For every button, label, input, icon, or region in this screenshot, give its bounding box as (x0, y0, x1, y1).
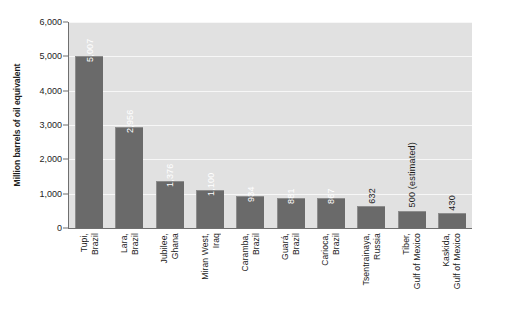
bar: 500 (estimated) (398, 211, 426, 228)
gridline (69, 91, 472, 92)
bar: 430 (438, 213, 466, 228)
x-axis-category-label: Carioca,Brazil (311, 233, 351, 319)
bar: 867 (317, 198, 345, 228)
bar-value-label: 5,007 (85, 39, 95, 63)
bar-value-label: 1,100 (206, 173, 216, 197)
x-axis-label-line: Russia (372, 233, 382, 260)
bar: 881 (277, 198, 305, 228)
bar: 5,007 (75, 56, 103, 228)
y-axis-tick-label: 3,000 (39, 120, 62, 130)
y-axis-title-text: Million barrels of oil equivalent (12, 64, 22, 187)
bar: 632 (357, 206, 385, 228)
x-axis-category-label: Miran West,Iraq (190, 233, 230, 319)
x-axis-label-line: Tsentrainaya, (361, 233, 371, 285)
y-axis-title: Million barrels of oil equivalent (10, 22, 24, 228)
x-axis-category-label: Guará,Brazil (271, 233, 311, 319)
x-axis-label-line: Lara, (119, 233, 129, 253)
x-axis-label-line: Jubilee, (159, 233, 169, 263)
y-axis-tick-label: 5,000 (39, 51, 62, 61)
bar-value-label: 934 (246, 186, 256, 202)
x-axis-label-line: Gulf of Mexico (452, 233, 462, 289)
y-axis-tick-labels: 01,0002,0003,0004,0005,0006,000 (28, 22, 68, 228)
x-axis-category-label: Tiber,Gulf of Mexico (391, 233, 431, 319)
x-axis-label-line: Iraq (211, 233, 221, 248)
bar-value-label: 1,376 (165, 163, 175, 187)
bar-value-label: 881 (286, 188, 296, 204)
y-axis-tick-label: 0 (57, 223, 62, 233)
bar-value-label: 632 (367, 188, 377, 204)
bar: 934 (236, 196, 264, 228)
gridline (69, 56, 472, 57)
y-axis-tick-label: 6,000 (39, 17, 62, 27)
plot-area: 5,0072,9561,3761,100934881867632500 (est… (69, 22, 472, 228)
y-axis-tick-label: 2,000 (39, 154, 62, 164)
x-axis-category-label: Jubilee,Ghana (150, 233, 190, 319)
x-axis-label-line: Kaskida, (441, 233, 451, 267)
y-axis-tick-label: 4,000 (39, 86, 62, 96)
x-axis-label-line: Tupi, (79, 233, 89, 252)
bar: 1,100 (196, 190, 224, 228)
x-axis-label-line: Gulf of Mexico (412, 233, 422, 289)
x-axis-category-label: Lara,Brazil (109, 233, 149, 319)
bar: 2,956 (115, 127, 143, 228)
x-axis-label-line: Brazil (90, 233, 100, 255)
x-axis-label-line: Carioca, (320, 233, 330, 266)
bar-value-label: 867 (326, 189, 336, 205)
x-axis-label-line: Ghana (170, 233, 180, 259)
x-axis-label-line: Guará, (280, 233, 290, 260)
bar: 1,376 (156, 181, 184, 228)
x-axis-line (68, 228, 472, 229)
x-axis-label-line: Brazil (291, 233, 301, 255)
x-axis-label-line: Brazil (130, 233, 140, 255)
x-axis-category-label: Tsentrainaya,Russia (351, 233, 391, 319)
x-axis-category-label: Tupi,Brazil (69, 233, 109, 319)
bar-value-label: 500 (estimated) (407, 142, 417, 208)
x-axis-category-label: Caramba,Brazil (230, 233, 270, 319)
bar-value-label: 2,956 (125, 109, 135, 133)
x-axis-label-line: Brazil (331, 233, 341, 255)
x-axis-label-line: Caramba, (240, 233, 250, 272)
x-axis-category-label: Kaskida,Gulf of Mexico (432, 233, 472, 319)
x-axis-label-line: Miran West, (200, 233, 210, 280)
bar-chart: Million barrels of oil equivalent 01,000… (0, 0, 508, 321)
x-axis-label-line: Tiber, (401, 233, 411, 255)
bar-value-label: 430 (447, 195, 457, 211)
gridline (69, 22, 472, 23)
x-axis-category-labels: Tupi,BrazilLara,BrazilJubilee,GhanaMiran… (69, 233, 472, 319)
x-axis-label-line: Brazil (251, 233, 261, 255)
y-axis-tick-label: 1,000 (39, 189, 62, 199)
